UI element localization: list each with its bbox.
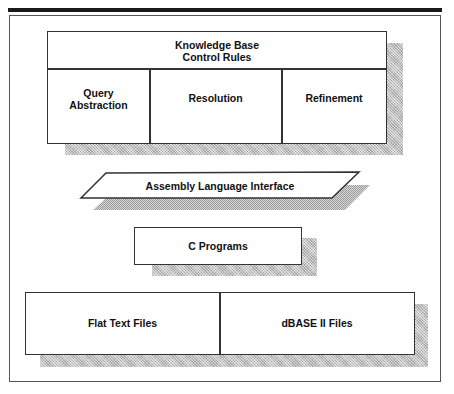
c-programs-block: C Programs: [134, 227, 302, 265]
dbase-files-cell: dBASE II Files: [221, 293, 413, 353]
flat-text-files-label: Flat Text Files: [88, 317, 157, 329]
assembly-interface-label-box: Assembly Language Interface: [81, 173, 359, 198]
c-programs-label: C Programs: [188, 240, 248, 252]
c-programs-cell: C Programs: [135, 228, 301, 264]
files-block: Flat Text Files dBASE II Files: [25, 292, 415, 355]
assembly-interface-label: Assembly Language Interface: [146, 180, 295, 192]
dbase-files-label: dBASE II Files: [281, 317, 352, 329]
flat-text-files-cell: Flat Text Files: [26, 293, 219, 353]
